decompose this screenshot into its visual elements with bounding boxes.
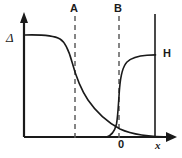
plot-canvas: [0, 0, 182, 158]
x-axis-label: x: [155, 140, 161, 151]
dashed-line-b-label: B: [114, 3, 122, 14]
vertical-line-h-label: H: [163, 48, 171, 59]
origin-label: 0: [118, 139, 124, 150]
decreasing-curve: [25, 35, 172, 137]
y-axis-arrowhead: [20, 12, 28, 23]
y-axis-label: Δ: [6, 31, 14, 44]
figure-container: Δ A B H 0 x: [0, 0, 182, 158]
dashed-line-a-label: A: [70, 3, 78, 14]
